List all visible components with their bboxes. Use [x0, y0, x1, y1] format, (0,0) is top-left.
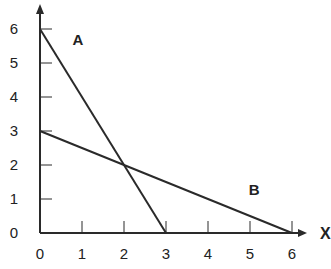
series-line-a	[40, 29, 166, 233]
x-tick-label: 6	[288, 245, 296, 262]
x-tick-label: 1	[78, 245, 86, 262]
x-axis-arrow-icon	[298, 229, 307, 237]
y-tick-label: 3	[10, 122, 18, 139]
y-tick-label: 0	[10, 224, 18, 241]
line-label-a: A	[72, 31, 83, 48]
y-axis-arrow-icon	[36, 4, 44, 14]
y-tick-label: 2	[10, 156, 18, 173]
y-tick-label: 4	[10, 88, 18, 105]
line-label-b: B	[249, 181, 260, 198]
x-tick-label: 2	[120, 245, 128, 262]
y-tick-label: 6	[10, 20, 18, 37]
x-tick-label: 4	[204, 245, 212, 262]
y-tick-label: 1	[10, 190, 18, 207]
x-tick-label: 0	[36, 245, 44, 262]
line-chart: X01234560123456AB	[0, 0, 331, 269]
x-tick-label: 3	[162, 245, 170, 262]
x-axis-label: X	[320, 225, 331, 242]
x-tick-label: 5	[246, 245, 254, 262]
y-tick-label: 5	[10, 54, 18, 71]
